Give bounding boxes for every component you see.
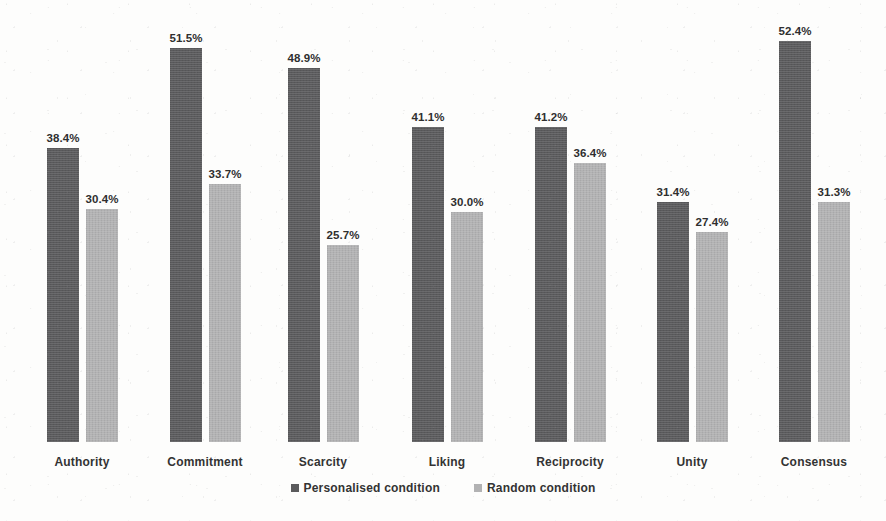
bar-value-label: 27.4% [695,216,728,228]
bar-value-label: 36.4% [573,147,606,159]
bar-personalised[interactable]: 41.1% [412,127,444,442]
bar-value-label: 41.1% [411,111,444,123]
legend-swatch-icon [474,484,482,492]
bar-value-label: 25.7% [326,229,359,241]
bar-value-label: 30.0% [450,196,483,208]
category-label: Scarcity [299,455,347,469]
category-label: Consensus [781,455,847,469]
bar-random[interactable]: 30.4% [86,209,118,442]
bar-value-label: 51.5% [169,32,202,44]
category-label: Authority [54,455,109,469]
legend-item-personalised[interactable]: Personalised condition [291,481,440,495]
bar-value-label: 38.4% [46,132,79,144]
category-label: Commitment [167,455,242,469]
legend-label: Random condition [487,481,596,495]
bar-personalised[interactable]: 52.4% [779,41,811,442]
chart-legend: Personalised condition Random condition [0,481,886,495]
bar-value-label: 41.2% [534,111,567,123]
bar-value-label: 33.7% [208,168,241,180]
bar-random[interactable]: 27.4% [696,232,728,442]
category-label: Reciprocity [536,455,604,469]
category-label: Liking [429,455,466,469]
bar-personalised[interactable]: 51.5% [170,48,202,442]
bar-chart: 38.4% 30.4% Authority 51.5% 33.7% Commit… [0,0,886,521]
bar-value-label: 30.4% [85,193,118,205]
plot-area: 38.4% 30.4% Authority 51.5% 33.7% Commit… [0,0,886,521]
category-label: Unity [677,455,708,469]
bar-random[interactable]: 36.4% [574,163,606,442]
bar-random[interactable]: 33.7% [209,184,241,442]
bar-personalised[interactable]: 41.2% [535,127,567,442]
bar-personalised[interactable]: 31.4% [657,202,689,442]
legend-item-random[interactable]: Random condition [474,481,596,495]
legend-label: Personalised condition [304,481,440,495]
bar-value-label: 31.3% [817,186,850,198]
legend-swatch-icon [291,484,299,492]
bar-value-label: 48.9% [287,52,320,64]
bar-value-label: 31.4% [656,186,689,198]
bar-random[interactable]: 30.0% [451,212,483,442]
bar-random[interactable]: 31.3% [818,202,850,442]
bar-value-label: 52.4% [778,25,811,37]
bar-random[interactable]: 25.7% [327,245,359,442]
bar-personalised[interactable]: 48.9% [288,68,320,442]
bar-personalised[interactable]: 38.4% [47,148,79,442]
